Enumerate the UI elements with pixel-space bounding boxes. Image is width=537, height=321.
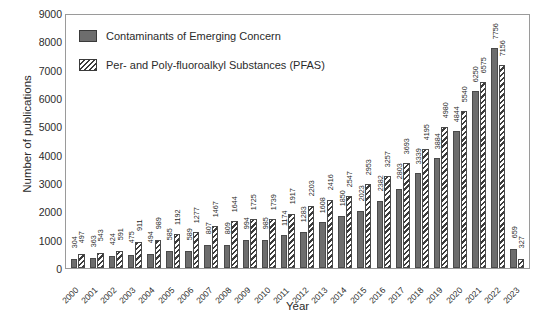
bar: 2953 — [365, 184, 372, 268]
bar-value-label: 4195 — [418, 140, 425, 156]
bar-value-label: 3257 — [380, 167, 387, 183]
bar-value-label: 5540 — [457, 102, 464, 118]
bar: 1192 — [174, 234, 181, 268]
bar: 2203 — [308, 206, 315, 268]
y-axis-tick-labels: 0100020003000400050006000700080009000 — [22, 0, 62, 280]
bar-value-label: 1174 — [277, 226, 284, 241]
bar: 5540 — [461, 111, 468, 268]
y-axis-tick: 3000 — [22, 178, 62, 190]
bar: 589 — [185, 251, 192, 268]
bar-value-label: 3339 — [411, 164, 418, 180]
bar-value-label: 4980 — [437, 118, 444, 134]
bar-group: 659327 — [508, 15, 527, 268]
bar-value-label: 989 — [151, 233, 158, 245]
y-axis-tick: 8000 — [22, 36, 62, 48]
bar: 1608 — [319, 222, 326, 268]
bar: 1644 — [231, 221, 238, 268]
bar-value-label: 589 — [181, 244, 188, 256]
bar: 3339 — [415, 173, 422, 268]
hatch-swatch — [79, 59, 97, 71]
bar: 1739 — [269, 219, 276, 268]
bar: 3884 — [434, 158, 441, 268]
bar-value-label: 659 — [506, 242, 513, 254]
bar: 475 — [128, 255, 135, 268]
bar: 1850 — [338, 216, 345, 268]
y-axis-tick: 5000 — [22, 121, 62, 133]
bar-value-label: 1467 — [208, 217, 215, 233]
bar: 591 — [116, 251, 123, 268]
bar: 497 — [78, 254, 85, 268]
bar: 2547 — [346, 196, 353, 268]
bar-value-label: 2203 — [304, 197, 311, 213]
bar-group: 77567156 — [489, 15, 508, 268]
bar: 2023 — [357, 211, 364, 268]
bar-value-label: 2416 — [323, 191, 330, 207]
bar: 363 — [90, 258, 97, 268]
plot-frame: 3044973635434245914759114949895851192589… — [65, 14, 530, 269]
bar-group: 62506575 — [470, 15, 489, 268]
chart-legend: Contaminants of Emerging ConcernPer- and… — [79, 29, 325, 87]
bar-value-label: 4844 — [449, 122, 456, 138]
bar-value-label: 1608 — [315, 213, 322, 229]
bar-value-label: 585 — [162, 244, 169, 256]
bar-value-label: 911 — [131, 235, 138, 246]
bar-value-label: 2953 — [361, 175, 368, 191]
bar-value-label: 7156 — [495, 56, 502, 72]
bar: 7756 — [491, 48, 498, 268]
bar: 1917 — [288, 214, 295, 268]
bar: 1174 — [281, 235, 288, 268]
bar: 985 — [262, 240, 269, 268]
solid-swatch — [79, 30, 97, 42]
bar: 543 — [97, 253, 104, 268]
bar: 6250 — [472, 91, 479, 268]
bar: 1467 — [212, 226, 219, 268]
bar-value-label: 2382 — [373, 192, 380, 208]
bar-value-label: 6575 — [476, 73, 483, 89]
bar: 4980 — [441, 127, 448, 268]
bar: 6575 — [480, 82, 487, 268]
bar: 1725 — [250, 219, 257, 268]
bar-value-label: 1644 — [227, 212, 234, 228]
bar-value-label: 1283 — [296, 223, 303, 239]
bar-value-label: 327 — [514, 252, 521, 264]
bar: 911 — [135, 242, 142, 268]
bar: 327 — [518, 259, 525, 268]
bar: 4195 — [422, 149, 429, 268]
bar-value-label: 424 — [105, 249, 112, 261]
x-axis-title: Year — [65, 300, 530, 312]
bar-value-label: 591 — [112, 244, 119, 256]
bar: 807 — [204, 245, 211, 268]
bar: 2416 — [327, 200, 334, 268]
bar: 2382 — [377, 201, 384, 268]
bar-value-label: 304 — [67, 252, 74, 264]
bar: 989 — [155, 240, 162, 268]
bar-group: 20232953 — [355, 15, 374, 268]
bar-value-label: 1192 — [170, 226, 177, 241]
bar-value-label: 497 — [74, 247, 81, 259]
legend-item: Per- and Poly-fluoroalkyl Substances (PF… — [79, 58, 325, 71]
bar-value-label: 7756 — [487, 39, 494, 55]
bar-value-label: 6250 — [468, 82, 475, 98]
bar: 2803 — [396, 189, 403, 268]
bar: 7156 — [499, 65, 506, 268]
bar: 1277 — [193, 232, 200, 268]
bar-group: 48445540 — [451, 15, 470, 268]
bar-value-label: 2547 — [342, 187, 349, 203]
bar-value-label: 1277 — [189, 223, 196, 239]
bar-value-label: 994 — [239, 233, 246, 245]
bar: 4844 — [453, 131, 460, 268]
bar-value-label: 543 — [93, 246, 100, 258]
bar-value-label: 807 — [200, 238, 207, 250]
y-axis-tick: 1000 — [22, 235, 62, 247]
legend-item-label: Per- and Poly-fluoroalkyl Substances (PF… — [106, 59, 325, 71]
bar-group: 28033693 — [393, 15, 412, 268]
bar: 3693 — [403, 163, 410, 268]
bar: 3257 — [384, 176, 391, 268]
y-axis-tick: 6000 — [22, 93, 62, 105]
bar: 809 — [224, 245, 231, 268]
bar-chart: Number of publications 01000200030004000… — [0, 0, 537, 321]
y-axis-tick: 2000 — [22, 206, 62, 218]
bar-value-label: 1850 — [334, 207, 341, 223]
legend-item: Contaminants of Emerging Concern — [79, 29, 325, 42]
bar-value-label: 475 — [124, 248, 131, 260]
